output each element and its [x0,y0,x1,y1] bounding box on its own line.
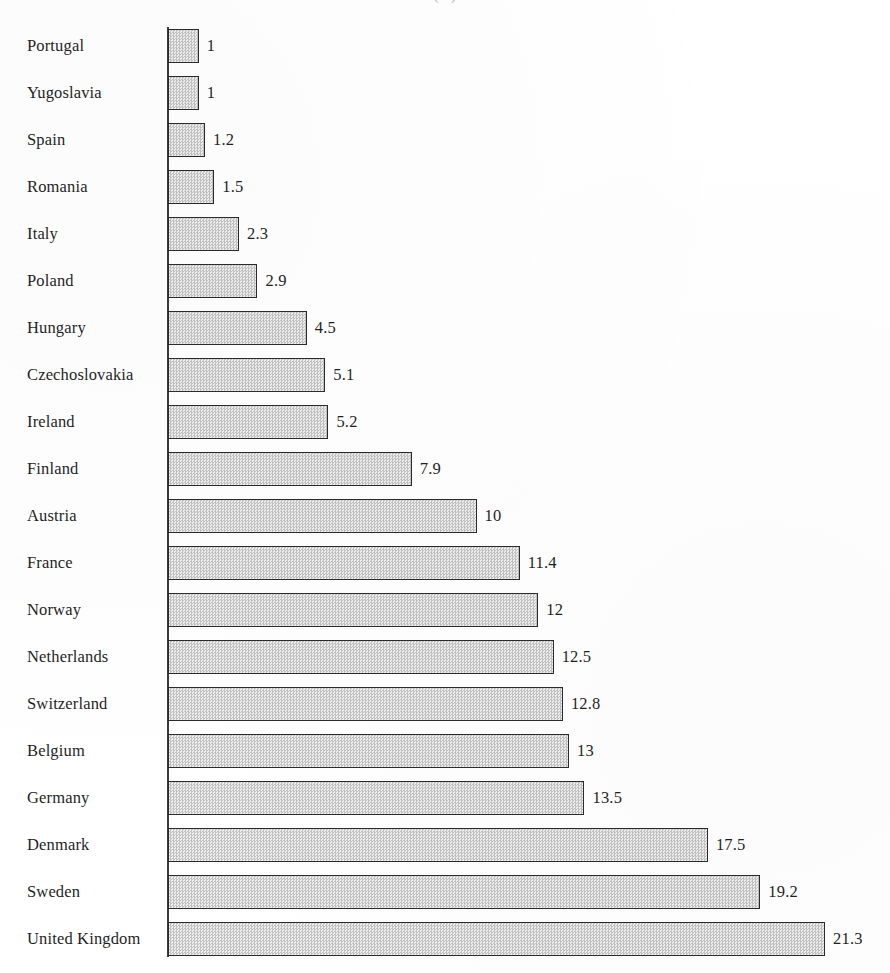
category-label: Poland [27,264,74,298]
bar-row: Belgium13 [0,734,890,768]
bar-value-label: 19.2 [768,875,798,909]
bar [168,593,538,627]
category-label: Sweden [27,875,80,909]
bar-row: Poland2.9 [0,264,890,298]
bar-value-label: 1 [207,29,215,63]
bar-row: France11.4 [0,546,890,580]
bar [168,452,412,486]
plot-area: Portugal1Yugoslavia1Spain1.2Romania1.5It… [0,0,890,973]
bar-row: Sweden19.2 [0,875,890,909]
bar-value-label: 11.4 [528,546,557,580]
category-axis-line [167,27,169,957]
bar [168,29,199,63]
category-label: Netherlands [27,640,108,674]
category-label: Portugal [27,29,84,63]
bar [168,217,239,251]
category-label: Romania [27,170,88,204]
bar-value-label: 13 [577,734,594,768]
category-label: Yugoslavia [27,76,102,110]
bar-value-label: 1.2 [213,123,234,157]
bar-value-label: 17.5 [716,828,746,862]
bar-row: United Kingdom21.3 [0,922,890,956]
bar-value-label: 4.5 [315,311,336,345]
category-label: Hungary [27,311,86,345]
bar-value-label: 12.5 [562,640,592,674]
bar-value-label: 7.9 [420,452,441,486]
bar-value-label: 1 [207,76,215,110]
bar [168,640,554,674]
bar [168,828,708,862]
bar-row: Romania1.5 [0,170,890,204]
category-label: Germany [27,781,89,815]
bar-row: Yugoslavia1 [0,76,890,110]
bar [168,781,584,815]
bar-row: Germany13.5 [0,781,890,815]
category-label: Italy [27,217,58,251]
category-label: Denmark [27,828,89,862]
bar [168,546,520,580]
category-label: Switzerland [27,687,107,721]
bar-value-label: 13.5 [592,781,622,815]
bar [168,76,199,110]
bar [168,875,760,909]
bar [168,170,214,204]
bar-value-label: 2.9 [265,264,286,298]
bar-value-label: 5.2 [336,405,357,439]
bar [168,358,325,392]
bar-row: Czechoslovakia5.1 [0,358,890,392]
bar-row: Portugal1 [0,29,890,63]
bar-row: Netherlands12.5 [0,640,890,674]
bar [168,734,569,768]
bar [168,922,825,956]
bar [168,405,328,439]
category-label: Finland [27,452,78,486]
category-label: Czechoslovakia [27,358,134,392]
bar-value-label: 5.1 [333,358,354,392]
category-label: France [27,546,73,580]
bar-row: Austria10 [0,499,890,533]
bar-row: Spain1.2 [0,123,890,157]
bar [168,123,205,157]
bar-value-label: 1.5 [222,170,243,204]
bar-value-label: 12.8 [571,687,601,721]
category-label: United Kingdom [27,922,140,956]
category-label: Ireland [27,405,75,439]
chart-root: (...) Portugal1Yugoslavia1Spain1.2Romani… [0,0,890,973]
bar [168,264,257,298]
bar-row: Ireland5.2 [0,405,890,439]
bar-row: Hungary4.5 [0,311,890,345]
category-label: Belgium [27,734,85,768]
bar-value-label: 2.3 [247,217,268,251]
bar-row: Italy2.3 [0,217,890,251]
category-label: Austria [27,499,77,533]
bar-value-label: 10 [485,499,502,533]
bar-row: Switzerland12.8 [0,687,890,721]
bar-row: Finland7.9 [0,452,890,486]
bar [168,311,307,345]
bar-row: Norway12 [0,593,890,627]
bar [168,687,563,721]
category-label: Norway [27,593,81,627]
bar [168,499,477,533]
category-label: Spain [27,123,65,157]
bar-value-label: 21.3 [833,922,863,956]
bar-row: Denmark17.5 [0,828,890,862]
bar-value-label: 12 [546,593,563,627]
